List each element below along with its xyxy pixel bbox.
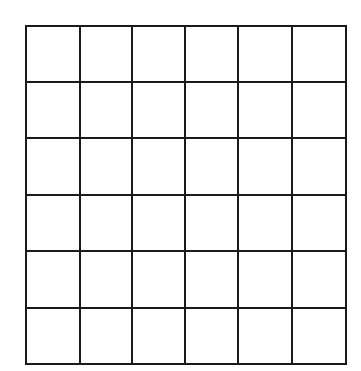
grid-cell-r1-c6	[292, 26, 346, 82]
empty-grid	[0, 0, 361, 371]
grid-cell-r2-c1	[26, 82, 80, 138]
grid-cell-r3-c5	[238, 138, 292, 195]
grid-cell-r6-c6	[292, 308, 346, 364]
grid-cell-r4-c5	[238, 195, 292, 251]
grid-cell-r6-c3	[132, 308, 185, 364]
grid-cell-r5-c5	[238, 251, 292, 308]
grid-cell-r6-c4	[185, 308, 238, 364]
grid-cell-r1-c5	[238, 26, 292, 82]
grid-cell-r3-c1	[26, 138, 80, 195]
grid-cell-r3-c6	[292, 138, 346, 195]
grid-cell-r2-c5	[238, 82, 292, 138]
grid-cell-r1-c3	[132, 26, 185, 82]
grid-cell-r5-c3	[132, 251, 185, 308]
grid-cell-r2-c2	[80, 82, 132, 138]
grid-cell-r4-c3	[132, 195, 185, 251]
grid-cell-r6-c5	[238, 308, 292, 364]
grid-cell-r4-c2	[80, 195, 132, 251]
grid-cell-r3-c4	[185, 138, 238, 195]
grid-cell-r2-c3	[132, 82, 185, 138]
grid-cell-r1-c1	[26, 26, 80, 82]
grid-cell-r2-c6	[292, 82, 346, 138]
grid-cell-r2-c4	[185, 82, 238, 138]
grid-cell-r5-c2	[80, 251, 132, 308]
grid-cell-r4-c6	[292, 195, 346, 251]
grid-cell-r4-c4	[185, 195, 238, 251]
grid-cell-r5-c6	[292, 251, 346, 308]
grid-cell-r5-c1	[26, 251, 80, 308]
grid-cell-r5-c4	[185, 251, 238, 308]
grid-cell-r6-c2	[80, 308, 132, 364]
grid-cell-r3-c2	[80, 138, 132, 195]
grid-cell-r4-c1	[26, 195, 80, 251]
grid-cell-r1-c2	[80, 26, 132, 82]
grid-cell-r1-c4	[185, 26, 238, 82]
grid-cell-r6-c1	[26, 308, 80, 364]
grid-cell-r3-c3	[132, 138, 185, 195]
